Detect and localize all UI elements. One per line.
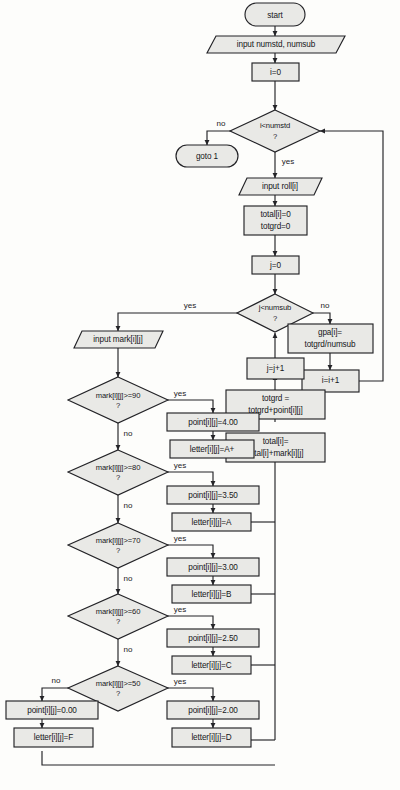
node-goto1-label: goto 1 — [196, 152, 219, 161]
node-point-000[interactable]: point[i][j]=0.00 — [6, 701, 98, 719]
edge-label-numsub-no: no — [321, 301, 330, 310]
node-letter-f[interactable]: letter[i][j]=F — [14, 728, 93, 747]
edge-label-numstd-yes: yes — [282, 157, 294, 166]
edge-c80-yes — [166, 472, 213, 486]
decision-mark-ge-60-line1: mark[i][j]>=60 — [96, 607, 141, 616]
node-j-init[interactable]: j=0 — [252, 256, 299, 274]
node-letter-f-label: letter[i][j]=F — [34, 733, 73, 742]
node-point-350[interactable]: point[i][j]=3.50 — [167, 486, 259, 504]
edge-c70-yes — [166, 545, 213, 558]
node-letter-c-label: letter[i][j]=C — [191, 661, 231, 670]
flowchart-page: start input numstd, numsub i=0 i<numstd … — [0, 0, 400, 790]
edge-label-c80-no: no — [124, 501, 133, 510]
decision-mark-ge-60[interactable]: mark[i][j]>=60 ? — [68, 594, 168, 639]
edge-label-c60-yes: yes — [174, 605, 186, 614]
node-j-incr[interactable]: j=j+1 — [247, 358, 304, 379]
edge-c60-yes — [166, 616, 213, 629]
node-point-200-label: point[i][j]=2.00 — [188, 706, 238, 715]
edge-numsub-no — [312, 313, 330, 324]
node-total-acc-line2: total[i]+mark[i][j] — [248, 449, 304, 458]
node-total-acc-line1: total[i]= — [263, 437, 289, 446]
node-point-350-label: point[i][j]=3.50 — [188, 491, 238, 500]
edge-c90-yes — [166, 400, 213, 413]
node-total-init-line2: totgrd=0 — [261, 222, 291, 231]
node-point-400-label: point[i][j]=4.00 — [188, 418, 238, 427]
edge-letterF-to-collector — [42, 751, 275, 765]
node-point-200[interactable]: point[i][j]=2.00 — [167, 701, 259, 719]
node-letter-d-label: letter[i][j]=D — [191, 733, 231, 742]
edge-c50-no — [42, 688, 70, 701]
node-total-init-line1: total[i]=0 — [260, 210, 291, 219]
node-gpa[interactable]: gpa[i]= totgrd/numsub — [288, 324, 373, 353]
node-total-init[interactable]: total[i]=0 totgrd=0 — [244, 206, 307, 235]
decision-mark-ge-80[interactable]: mark[i][j]>=80 ? — [68, 450, 168, 495]
decision-j-lt-numsub-line1: j<numsub — [258, 303, 291, 312]
node-point-400[interactable]: point[i][j]=4.00 — [167, 413, 259, 431]
node-goto1[interactable]: goto 1 — [176, 145, 238, 167]
edge-label-numsub-yes: yes — [184, 301, 196, 310]
node-start-label: start — [267, 11, 283, 20]
decision-mark-ge-90-line2: ? — [116, 401, 120, 410]
decision-mark-ge-80-line2: ? — [116, 473, 120, 482]
node-letter-aplus[interactable]: letter[i][j]=A+ — [170, 440, 254, 458]
decision-mark-ge-70-line2: ? — [116, 546, 120, 555]
node-input-roll[interactable]: input roll[i] — [239, 178, 322, 195]
edge-label-c50-no: no — [52, 676, 61, 685]
node-input-mark-label: input mark[i][j] — [93, 335, 142, 344]
node-gpa-line2: totgrd/numsub — [304, 340, 356, 349]
decision-mark-ge-50-line2: ? — [116, 689, 120, 698]
node-point-250-label: point[i][j]=2.50 — [188, 634, 238, 643]
node-letter-aplus-label: letter[i][j]=A+ — [190, 445, 235, 454]
node-input-numstd-label: input numstd, numsub — [237, 40, 316, 49]
decision-mark-ge-90-line1: mark[i][j]>=90 — [96, 391, 141, 400]
edge-label-c90-no: no — [124, 429, 133, 438]
node-point-300[interactable]: point[i][j]=3.00 — [167, 558, 259, 576]
decision-mark-ge-70[interactable]: mark[i][j]>=70 ? — [68, 523, 168, 568]
edge-numstd-no — [207, 131, 234, 145]
node-i-init-label: i=0 — [270, 68, 281, 77]
decision-mark-ge-70-line1: mark[i][j]>=70 — [96, 536, 141, 545]
node-i-init[interactable]: i=0 — [252, 63, 299, 81]
node-i-incr[interactable]: i=i+1 — [302, 370, 359, 392]
node-letter-a-label: letter[i][j]=A — [192, 518, 232, 527]
node-j-incr-label: j=j+1 — [266, 364, 285, 373]
node-letter-b[interactable]: letter[i][j]=B — [172, 585, 251, 603]
decision-mark-ge-60-line2: ? — [116, 617, 120, 626]
edge-label-c70-yes: yes — [174, 534, 186, 543]
node-totgrd-acc-line1: totgrd = — [262, 394, 290, 403]
decision-mark-ge-80-line1: mark[i][j]>=80 — [96, 463, 141, 472]
edge-label-c80-yes: yes — [174, 461, 186, 470]
node-letter-a[interactable]: letter[i][j]=A — [172, 513, 251, 531]
flowchart-canvas: start input numstd, numsub i=0 i<numstd … — [0, 0, 400, 790]
decision-i-lt-numstd-line1: i<numstd — [260, 121, 290, 130]
edge-label-c50-yes: yes — [174, 677, 186, 686]
edge-label-c90-yes: yes — [174, 389, 186, 398]
node-input-numstd-numsub[interactable]: input numstd, numsub — [207, 36, 345, 53]
node-point-250[interactable]: point[i][j]=2.50 — [167, 629, 259, 647]
edge-c50-yes — [166, 688, 213, 701]
edge-label-numstd-no: no — [217, 119, 226, 128]
node-gpa-line1: gpa[i]= — [318, 328, 342, 337]
node-letter-b-label: letter[i][j]=B — [192, 590, 232, 599]
node-start[interactable]: start — [245, 3, 305, 26]
node-letter-d[interactable]: letter[i][j]=D — [172, 728, 251, 747]
decision-mark-ge-90[interactable]: mark[i][j]>=90 ? — [68, 377, 168, 423]
edge-label-c60-no: no — [124, 645, 133, 654]
node-point-300-label: point[i][j]=3.00 — [188, 563, 238, 572]
edge-label-c70-no: no — [124, 574, 133, 583]
node-input-mark[interactable]: input mark[i][j] — [74, 331, 163, 348]
node-letter-c[interactable]: letter[i][j]=C — [172, 656, 251, 674]
decision-mark-ge-50-line1: mark[i][j]>=50 — [96, 679, 141, 688]
edge-numsub-yes — [118, 313, 238, 331]
node-point-000-label: point[i][j]=0.00 — [27, 706, 77, 715]
decision-j-lt-numsub-line2: ? — [273, 314, 277, 323]
decision-i-lt-numstd-line2: ? — [273, 132, 277, 141]
node-input-roll-label: input roll[i] — [262, 182, 298, 191]
node-j-init-label: j=0 — [269, 261, 281, 270]
node-i-incr-label: i=i+1 — [322, 376, 340, 385]
decision-i-lt-numstd[interactable]: i<numstd ? — [230, 110, 320, 152]
